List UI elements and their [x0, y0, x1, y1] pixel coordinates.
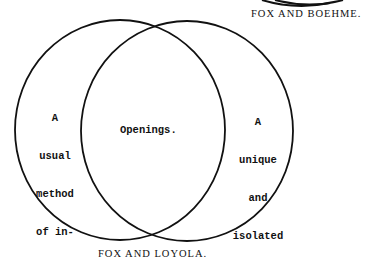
right-region-label: A unique and isolated exper- ience.	[226, 91, 290, 261]
right-line: isolated	[226, 230, 290, 243]
bottom-caption: FOX AND LOYOLA.	[98, 248, 207, 259]
right-line: unique	[226, 154, 290, 167]
left-line: method	[28, 188, 82, 201]
left-line: A	[28, 112, 82, 125]
left-line: of in-	[28, 226, 82, 239]
boehme-circle-arc-right	[275, 0, 343, 5]
right-line: and	[226, 192, 290, 205]
right-line: A	[226, 116, 290, 129]
center-region-label: Openings.	[120, 124, 177, 137]
left-region-label: A usual method of in- sight and guid- an…	[28, 87, 82, 261]
left-line: usual	[28, 150, 82, 163]
top-caption: FOX AND BOEHME.	[251, 8, 361, 19]
